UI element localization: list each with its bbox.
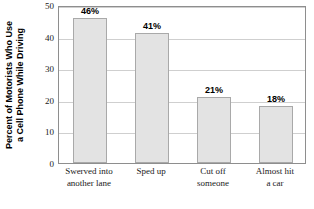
x-category-label-4-line-2: a car (244, 178, 306, 190)
x-category-label-1-line-1: Swerved into (58, 166, 120, 178)
x-axis-labels: Swerved into another lane Sped up Cut of… (58, 166, 306, 206)
bar-cut-off-someone[interactable] (197, 97, 231, 163)
x-category-label-3-line-2: someone (182, 178, 244, 190)
y-axis-title-line-1: Percent of Motorists Who Use (4, 21, 15, 149)
bar-slot-3: 21% (183, 7, 245, 163)
y-axis-tick-labels: 0 10 20 30 40 50 (30, 0, 57, 209)
x-category-label-1-line-2: another lane (58, 178, 120, 190)
bar-sped-up[interactable] (135, 33, 169, 163)
y-tick-label-50: 50 (45, 1, 54, 11)
bar-slot-2: 41% (121, 7, 183, 163)
bar-value-1: 46% (81, 6, 99, 16)
x-category-label-4-line-1: Almost hit (244, 166, 306, 178)
bar-chart: Percent of Motorists Who Use a Cell Phon… (0, 0, 314, 209)
bar-swerved-into-another-lane[interactable] (73, 18, 107, 163)
y-tick-label-20: 20 (45, 96, 54, 106)
bar-slot-4: 18% (245, 7, 307, 163)
plot-area: 46% 41% 21% 18% (58, 6, 306, 164)
bar-slot-1: 46% (59, 7, 121, 163)
y-tick-label-0: 0 (50, 159, 55, 169)
bars-layer: 46% 41% 21% 18% (59, 7, 305, 163)
x-category-label-3: Cut off someone (182, 166, 244, 189)
y-tick-label-30: 30 (45, 64, 54, 74)
y-axis-title: Percent of Motorists Who Use a Cell Phon… (0, 0, 30, 170)
y-axis-title-line-2: a Cell Phone While Driving (15, 21, 26, 149)
x-category-label-1: Swerved into another lane (58, 166, 120, 189)
x-category-label-2: Sped up (120, 166, 182, 178)
x-category-label-2-line-1: Sped up (120, 166, 182, 178)
y-tick-label-10: 10 (45, 127, 54, 137)
x-category-label-4: Almost hit a car (244, 166, 306, 189)
bar-value-4: 18% (267, 94, 285, 104)
y-tick-label-40: 40 (45, 33, 54, 43)
bar-value-3: 21% (205, 85, 223, 95)
x-category-label-3-line-1: Cut off (182, 166, 244, 178)
bar-value-2: 41% (143, 21, 161, 31)
bar-almost-hit-a-car[interactable] (259, 106, 293, 163)
